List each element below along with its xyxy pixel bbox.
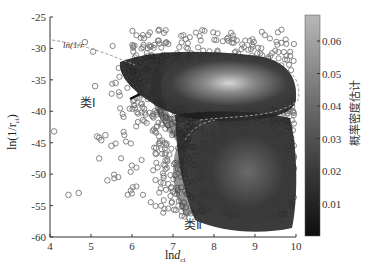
- colorbar: [305, 15, 320, 236]
- svg-text:0.04: 0.04: [322, 100, 342, 112]
- svg-text:4: 4: [47, 240, 53, 252]
- svg-text:0.03: 0.03: [322, 133, 342, 145]
- class1-label: 类Ⅰ: [80, 96, 96, 110]
- svg-text:-55: -55: [31, 200, 46, 212]
- svg-text:0.02: 0.02: [322, 165, 341, 177]
- svg-text:-45: -45: [31, 137, 46, 149]
- svg-text:-60: -60: [31, 231, 46, 243]
- svg-text:0.05: 0.05: [322, 68, 342, 80]
- colorbar-label: 概率密度估计: [348, 80, 362, 146]
- svg-text:-25: -25: [31, 11, 46, 23]
- svg-text:9: 9: [252, 240, 258, 252]
- density-scatter-chart: ln(1/r 类Ⅰ 类Ⅱ 45678910 -25-30-35-40-45-50…: [0, 0, 372, 277]
- colorbar-ticks: 0.010.020.030.040.050.06: [317, 35, 342, 210]
- x-axis-label: lndci: [165, 248, 185, 264]
- svg-text:0.06: 0.06: [322, 35, 342, 47]
- boundary-label: ln(1/r: [63, 40, 84, 50]
- svg-text:-30: -30: [31, 42, 46, 54]
- density-clusters: [120, 52, 296, 232]
- svg-text:5: 5: [88, 240, 94, 252]
- svg-text:-40: -40: [31, 105, 46, 117]
- svg-text:-35: -35: [31, 74, 46, 86]
- svg-text:10: 10: [291, 240, 303, 252]
- y-axis-label: ln(1/rci): [5, 114, 21, 150]
- svg-text:8: 8: [211, 240, 217, 252]
- svg-text:-50: -50: [31, 168, 46, 180]
- class2-label: 类Ⅱ: [184, 218, 202, 232]
- svg-text:0.01: 0.01: [322, 198, 341, 210]
- svg-text:6: 6: [129, 240, 135, 252]
